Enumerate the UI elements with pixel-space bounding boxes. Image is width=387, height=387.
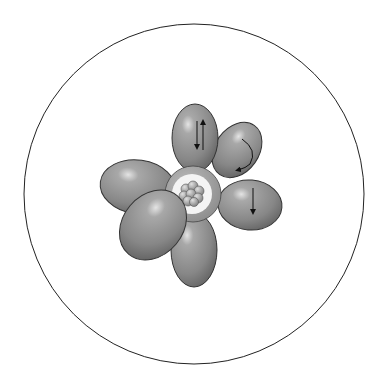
lobe-right xyxy=(216,177,284,232)
atom-diagram xyxy=(0,0,387,387)
lobe-top xyxy=(172,104,218,172)
